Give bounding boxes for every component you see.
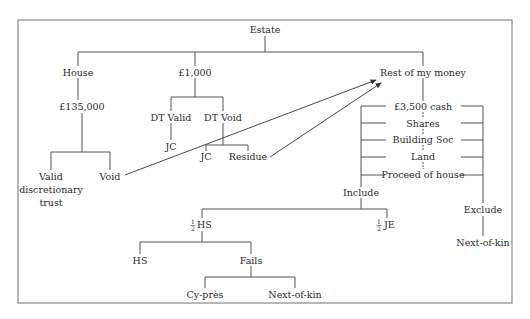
node-next-of-kin-right: Next-of-kin <box>456 237 509 248</box>
node-valid-dt-line3: trust <box>39 197 62 208</box>
node-dt-valid: DT Valid <box>151 112 192 123</box>
node-building-soc: Building Soc <box>392 134 453 145</box>
node-thousand: £1,000 <box>178 67 211 78</box>
node-cash: £3,500 cash <box>394 101 452 112</box>
fraction-denominator: 2 <box>377 225 381 232</box>
node-proceed-house: Proceed of house <box>381 169 464 180</box>
node-house: House <box>63 67 94 78</box>
node-cy-pres: Cy-près <box>187 289 224 300</box>
node-valid-dt-line1: Valid <box>38 171 63 182</box>
node-hs: HS <box>133 255 148 266</box>
node-dt-void: DT Void <box>204 112 242 123</box>
node-land: Land <box>411 151 435 162</box>
node-residue: Residue <box>229 151 268 162</box>
node-void: Void <box>99 171 121 182</box>
node-valid-dt-line2: discretionary <box>19 184 83 195</box>
arrow-residue-to-rest <box>270 83 381 157</box>
node-exclude: Exclude <box>464 204 503 215</box>
node-estate: Estate <box>250 24 281 35</box>
node-half-je: 1 2 JE <box>377 218 395 232</box>
node-include: Include <box>343 187 379 198</box>
node-jc-valid: JC <box>164 141 176 152</box>
node-jc-void: JC <box>199 151 211 162</box>
node-rest-of-money: Rest of my money <box>380 67 467 78</box>
half-hs-label: HS <box>197 219 212 230</box>
node-fails: Fails <box>240 255 263 266</box>
node-shares: Shares <box>406 118 439 129</box>
estate-distribution-diagram: Estate House £135,000 Valid discretionar… <box>0 0 530 319</box>
fraction-numerator: 1 <box>377 218 381 225</box>
fraction-denominator: 2 <box>191 225 195 232</box>
node-next-of-kin-bottom: Next-of-kin <box>268 289 321 300</box>
half-je-label: JE <box>383 219 395 230</box>
fraction-numerator: 1 <box>191 218 195 225</box>
node-half-hs: 1 2 HS <box>191 218 212 232</box>
node-house-value: £135,000 <box>59 101 104 112</box>
